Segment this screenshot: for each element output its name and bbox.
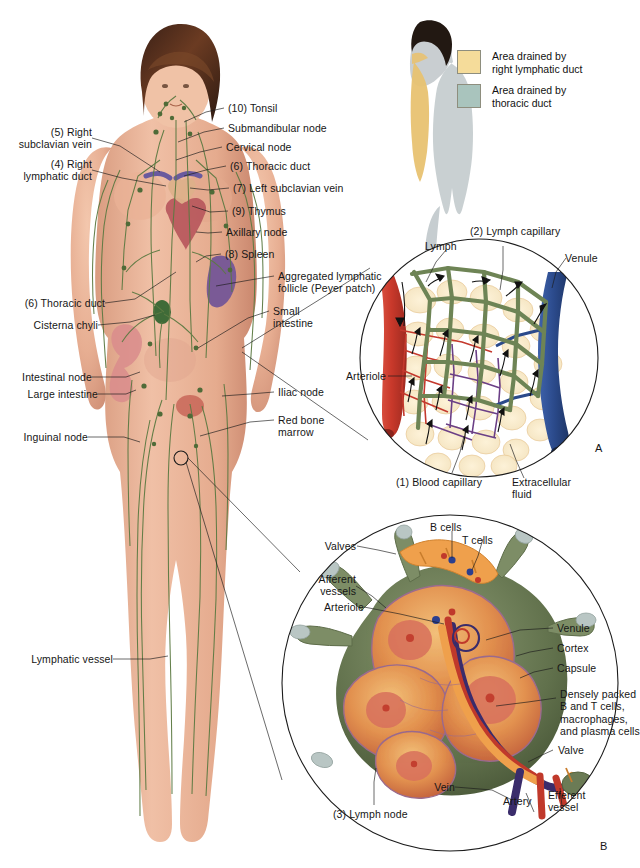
label-b-lymph-node: (3) Lymph node — [333, 808, 408, 820]
label-t-cells: T cells — [462, 534, 493, 546]
hair — [141, 24, 221, 122]
label-axillary-node: Axillary node — [226, 226, 287, 238]
label-a-extracellular-fluid: Extracellular fluid — [512, 476, 571, 501]
label-a-lymph-capillary: (2) Lymph capillary — [470, 225, 560, 237]
legend-swatch-right-lymphatic-duct — [457, 50, 481, 74]
efferent-vessel — [442, 628, 540, 782]
label-b-venule: Venule — [557, 622, 590, 634]
label-a-arteriole: Arteriole — [330, 370, 386, 382]
label-b-cortex: Cortex — [557, 642, 589, 654]
label-submandibular-node: Submandibular node — [228, 122, 327, 134]
label-peyer-patch: Aggregated lymphatic follicle (Peyer pat… — [278, 270, 382, 295]
label-small-intestine: Small intestine — [273, 305, 313, 330]
large-intestine — [110, 324, 142, 402]
label-iliac-node: Iliac node — [278, 386, 324, 398]
label-left-subclavian-vein: (7) Left subclavian vein — [233, 182, 344, 194]
cortex-lobe-upper — [372, 586, 514, 722]
panel-a-artwork — [358, 238, 602, 482]
label-right-subclavian-vein: (5) Right subclavian vein — [6, 126, 92, 151]
legend-swatch-thoracic-duct — [457, 84, 481, 108]
cortex-lobe-left — [344, 665, 449, 761]
label-valves: Valves — [298, 540, 356, 552]
spleen — [207, 255, 236, 307]
lymphatic-network — [93, 96, 264, 816]
label-intestinal-node: Intestinal node — [4, 371, 92, 383]
label-inguinal-node: Inguinal node — [4, 431, 88, 443]
label-b-cells: B cells — [430, 521, 462, 533]
label-b-artery: Artery — [503, 795, 532, 807]
label-red-bone-marrow: Red bone marrow — [278, 414, 324, 439]
label-b-vein: Vein — [422, 781, 455, 793]
panel-b-letter: B — [600, 840, 607, 852]
leader-lines — [88, 108, 566, 812]
legend: Area drained by right lymphatic duct Are… — [457, 50, 582, 118]
panel-a-circle — [360, 239, 598, 477]
b-cell — [448, 556, 455, 563]
legend-label-thoracic-duct: Area drained by thoracic duct — [492, 84, 566, 109]
label-thymus: (9) Thymus — [232, 205, 286, 217]
label-a-venule: Venule — [565, 252, 598, 264]
panel-a-letter: A — [595, 442, 602, 454]
label-lymphatic-vessel: Lymphatic vessel — [4, 653, 113, 665]
label-b-capsule: Capsule — [557, 662, 596, 674]
head — [142, 48, 210, 128]
label-afferent-vessels: Afferent vessels — [294, 573, 356, 598]
label-cervical-node: Cervical node — [226, 141, 292, 153]
lymph-capillary-network — [412, 268, 546, 428]
vein — [452, 626, 566, 788]
label-b-efferent-vessel: Efferent vessel — [548, 789, 585, 814]
organs — [110, 173, 237, 417]
label-thoracic-duct-left: (6) Thoracic duct — [4, 297, 105, 309]
thymus — [168, 178, 196, 204]
right-drainage-area — [411, 62, 429, 182]
label-b-valve: Valve — [558, 744, 584, 756]
cisterna-chyli — [153, 300, 171, 324]
capsule — [336, 565, 567, 796]
lymph-nodes — [122, 102, 233, 449]
lymph-node-callout-marker — [174, 451, 188, 465]
label-a-lymph: Lymph — [425, 240, 457, 252]
venule — [538, 272, 570, 460]
label-b-densely-packed: Densely packed B and T cells, macrophage… — [560, 688, 640, 738]
legend-item-right-lymphatic-duct: Area drained by right lymphatic duct — [457, 50, 582, 75]
heart — [166, 198, 206, 250]
cortex-lobe-right — [442, 656, 541, 761]
label-tonsil: (10) Tonsil — [228, 102, 277, 114]
label-right-lymphatic-duct: (4) Right lymphatic duct — [6, 158, 92, 183]
artery — [448, 620, 534, 776]
label-b-arteriole: Arteriole — [306, 601, 364, 613]
body-silhouette — [95, 58, 257, 842]
label-cisterna-chyli: Cisterna chyli — [4, 319, 98, 331]
venule-detail — [453, 625, 479, 651]
legend-item-thoracic-duct: Area drained by thoracic duct — [457, 84, 582, 109]
label-a-blood-capillary: (1) Blood capillary — [396, 476, 482, 488]
valve-marks — [420, 548, 476, 573]
label-thoracic-duct-right: (6) Thoracic duct — [230, 160, 310, 172]
arteriole-detail — [455, 629, 469, 643]
legend-label-right-lymphatic-duct: Area drained by right lymphatic duct — [492, 50, 582, 75]
label-large-intestine: Large intestine — [4, 388, 98, 400]
t-cell — [441, 553, 447, 559]
label-spleen: (8) Spleen — [225, 248, 275, 260]
